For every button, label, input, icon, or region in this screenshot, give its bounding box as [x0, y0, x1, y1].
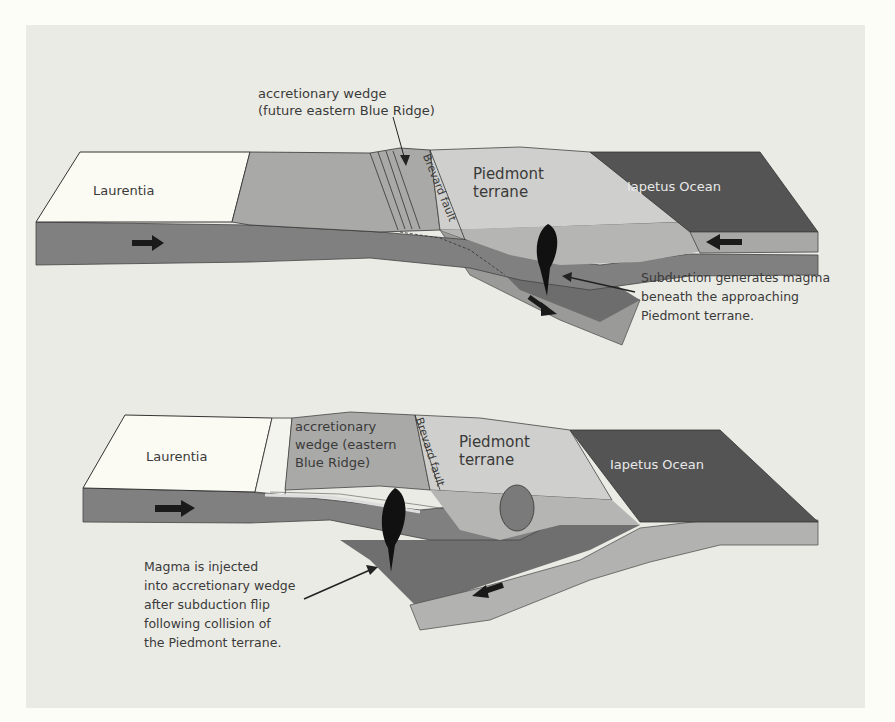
top-wedge-callout-line1: accretionary wedge	[258, 85, 387, 102]
bottom-piedmont-label-line2: terrane	[459, 451, 514, 469]
top-caption-line1: Subduction generates magma	[641, 268, 830, 287]
bottom-caption-line5: the Piedmont terrane.	[144, 633, 281, 652]
bottom-wedge-label-line1: accretionary	[295, 418, 376, 435]
bottom-caption-line3: after subduction flip	[144, 595, 270, 614]
bottom-caption-line1: Magma is injected	[144, 557, 258, 576]
top-piedmont-label-line1: Piedmont	[473, 165, 544, 183]
bottom-caption-line4: following collision of	[144, 614, 271, 633]
top-caption-line2: beneath the approaching	[641, 287, 799, 306]
top-ocean-label: Iapetus Ocean	[627, 178, 721, 195]
bottom-caption-leader	[304, 570, 370, 599]
bottom-caption-line2: into accretionary wedge	[144, 576, 295, 595]
bottom-laurentia-label: Laurentia	[146, 448, 207, 465]
bottom-wedge-label-line3: Blue Ridge)	[295, 454, 370, 471]
top-caption-line3: Piedmont terrane.	[641, 306, 754, 325]
bottom-wedge-label-line2: wedge (eastern	[295, 436, 397, 453]
top-laurentia-label: Laurentia	[93, 182, 154, 199]
bottom-piedmont-label-line1: Piedmont	[459, 433, 530, 451]
bottom-ocean-label: Iapetus Ocean	[610, 456, 704, 473]
top-piedmont-label-line2: terrane	[473, 183, 528, 201]
top-wedge-callout-line2: (future eastern Blue Ridge)	[258, 102, 435, 119]
tectonic-diagram	[0, 0, 895, 722]
bottom-pluton	[500, 485, 534, 531]
